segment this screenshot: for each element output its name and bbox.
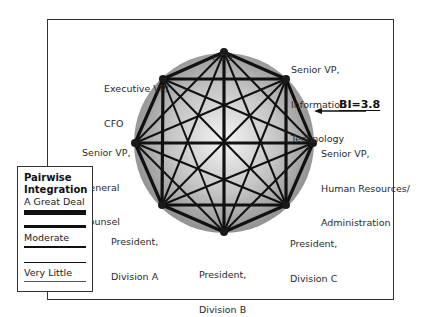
legend-label-moderate: Moderate [24, 232, 86, 243]
legend-line-moderate [24, 246, 86, 248]
legend-title-line1: Pairwise [24, 172, 86, 184]
legend: Pairwise Integration A Great Deal Modera… [17, 166, 93, 292]
legend-line-thick-2 [24, 225, 86, 228]
bi-score-label: BI=3.8 [339, 98, 380, 111]
node-division-c [282, 201, 290, 209]
legend-line-very-thin [24, 281, 86, 282]
legend-title-line2: Integration [24, 184, 86, 196]
label-ceo: CEO [212, 29, 232, 75]
legend-line-thin [24, 262, 86, 263]
legend-label-great-deal: A Great Deal [24, 196, 86, 207]
legend-label-very-little: Very Little [24, 267, 86, 278]
legend-line-thick [24, 210, 86, 215]
node-it [282, 75, 290, 83]
node-division-b [220, 228, 228, 236]
label-division-b: President, Division B [199, 246, 246, 317]
node-division-a [158, 201, 166, 209]
label-division-a: President, Division A [111, 213, 158, 294]
label-division-c: President, Division C [290, 215, 337, 296]
